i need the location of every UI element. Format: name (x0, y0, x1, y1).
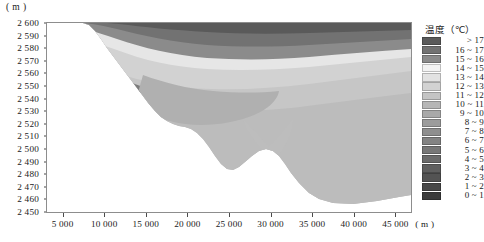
x-axis-tick-label: 35 000 (299, 219, 325, 229)
x-axis-tick-mark (271, 213, 272, 217)
y-axis-tick-label: 2 540 (17, 94, 39, 103)
contour-bands-svg (47, 23, 411, 212)
legend-swatch (422, 192, 441, 200)
legend-swatch (422, 164, 441, 172)
y-axis-tick-label: 2 520 (17, 119, 39, 128)
y-axis-tick-label: 2 460 (17, 195, 39, 204)
x-axis-tick-label: 10 000 (91, 219, 117, 229)
band-stack (47, 23, 411, 212)
legend-swatch (422, 82, 441, 90)
legend-swatch (422, 55, 441, 63)
x-axis-tick-label: 40 000 (341, 219, 367, 229)
legend-swatch (422, 155, 441, 163)
y-axis-tick-label: 2 470 (17, 182, 39, 191)
x-axis-tick-mark (354, 213, 355, 217)
x-axis-unit-label: ( m ) (415, 219, 434, 229)
legend-swatch (422, 46, 441, 54)
x-axis-tick-label: 5 000 (52, 219, 74, 229)
legend-swatch (422, 64, 441, 72)
legend-swatch (422, 73, 441, 81)
x-axis-tick-mark (104, 213, 105, 217)
x-axis-tick-label: 25 000 (216, 219, 242, 229)
temperature-cross-section-figure: ( m ) 2 6002 5902 5802 5702 5602 5502 54… (0, 0, 484, 242)
x-axis-tick-label: 30 000 (257, 219, 283, 229)
legend-title: 温度（℃） (416, 24, 484, 35)
y-axis-tick-label: 2 560 (17, 69, 39, 78)
legend-swatch (422, 128, 441, 136)
legend-swatch (422, 183, 441, 191)
x-axis-tick-label: 15 000 (133, 219, 159, 229)
x-axis: 5 00010 00015 00020 00025 00030 00035 00… (46, 213, 412, 239)
y-axis-tick-label: 2 550 (17, 82, 39, 91)
legend-entry-label: 0 ~ 1 (443, 191, 484, 200)
y-axis-unit-label: ( m ) (6, 2, 26, 12)
y-axis-tick-label: 2 480 (17, 170, 39, 179)
x-axis-tick-label: 45 000 (382, 219, 408, 229)
legend-entry: 0 ~ 1 (416, 192, 484, 201)
x-axis-tick-mark (146, 213, 147, 217)
legend-swatch (422, 110, 441, 118)
y-axis-tick-label: 2 490 (17, 157, 39, 166)
y-axis-tick-label: 2 450 (17, 208, 39, 217)
y-axis-tick-label: 2 500 (17, 145, 39, 154)
legend-rows: > 1716 ~ 1715 ~ 1614 ~ 1513 ~ 1412 ~ 131… (416, 37, 484, 201)
y-axis-tick-label: 2 590 (17, 31, 39, 40)
x-axis-tick-label: 20 000 (174, 219, 200, 229)
x-axis-tick-mark (395, 213, 396, 217)
y-axis-tick-label: 2 600 (17, 19, 39, 28)
y-axis-tick-label: 2 530 (17, 107, 39, 116)
legend-swatch (422, 101, 441, 109)
x-axis-tick-mark (63, 213, 64, 217)
legend-swatch (422, 146, 441, 154)
y-axis-tick-label: 2 580 (17, 44, 39, 53)
legend: 温度（℃） > 1716 ~ 1715 ~ 1614 ~ 1513 ~ 1412… (416, 24, 484, 216)
contour-plot-area (46, 22, 412, 213)
x-axis-tick-mark (312, 213, 313, 217)
legend-swatch (422, 137, 441, 145)
y-axis-tick-label: 2 570 (17, 56, 39, 65)
legend-swatch (422, 37, 441, 45)
legend-swatch (422, 92, 441, 100)
x-axis-tick-mark (187, 213, 188, 217)
legend-swatch (422, 119, 441, 127)
x-axis-tick-mark (229, 213, 230, 217)
y-axis: 2 6002 5902 5802 5702 5602 5502 5402 530… (0, 22, 46, 213)
legend-swatch (422, 173, 441, 181)
y-axis-tick-label: 2 510 (17, 132, 39, 141)
